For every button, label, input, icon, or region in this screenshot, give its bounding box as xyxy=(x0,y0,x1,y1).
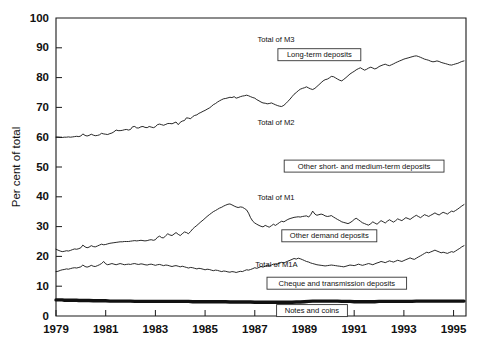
x-axis-tick-label: 1985 xyxy=(192,323,218,335)
y-axis-tick-label: 50 xyxy=(36,161,49,173)
y-axis-tick-label: 40 xyxy=(36,190,49,202)
y-axis-tick-label: 60 xyxy=(36,131,49,143)
series-line-total-of-m1 xyxy=(56,204,464,252)
annotation-label-notes-and-coins: Notes and coins xyxy=(285,306,340,315)
chart-figure: 0102030405060708090100197919811983198519… xyxy=(0,0,485,353)
x-axis-tick-label: 1987 xyxy=(242,323,268,335)
y-axis-tick-label: 10 xyxy=(36,280,49,292)
y-axis-tick-label: 0 xyxy=(43,310,49,322)
x-axis-tick-label: 1993 xyxy=(391,323,417,335)
y-axis-tick-label: 100 xyxy=(30,12,49,24)
annotation-label-other-demand-deposits: Other demand deposits xyxy=(290,231,369,240)
annotation-label-total-of-m1: Total of M1 xyxy=(257,193,294,202)
annotation-label-long-term-deposits: Long-term deposits xyxy=(287,50,352,59)
y-axis-tick-label: 70 xyxy=(36,101,49,113)
x-axis-tick-label: 1989 xyxy=(292,323,318,335)
y-axis-tick-label: 30 xyxy=(36,220,49,232)
y-axis-tick-label: 20 xyxy=(36,250,49,262)
chart-canvas: 0102030405060708090100197919811983198519… xyxy=(0,0,485,353)
annotation-label-total-of-m3: Total of M3 xyxy=(257,35,294,44)
x-axis-tick-label: 1981 xyxy=(93,323,119,335)
annotation-label-total-of-m1a: Total of M1A xyxy=(255,260,298,269)
annotation-label-total-of-m2: Total of M2 xyxy=(257,118,294,127)
annotation-label-cheque-and-transmission-deposits: Cheque and transmission deposits xyxy=(279,279,396,288)
x-axis-tick-label: 1979 xyxy=(43,323,69,335)
x-axis-tick-label: 1995 xyxy=(441,323,467,335)
y-axis-tick-label: 90 xyxy=(36,41,49,53)
annotation-label-other-short-and-medium-term-deposits: Other short- and medium-term deposits xyxy=(298,162,431,171)
x-axis-tick-label: 1983 xyxy=(143,323,169,335)
x-axis-tick-label: 1991 xyxy=(341,323,367,335)
series-line-notes-and-coins xyxy=(56,300,464,302)
y-axis-tick-label: 80 xyxy=(36,71,49,83)
y-axis-title: Per cent of total xyxy=(10,127,22,208)
